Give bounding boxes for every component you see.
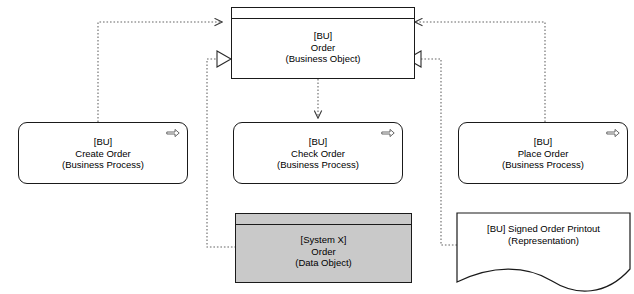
node-line-2: Order <box>236 246 411 258</box>
connector-signed-order-printout-realizes-order <box>421 59 457 245</box>
node-line-2: (Representation) <box>456 235 631 247</box>
node-line-3: (Business Process) <box>19 159 187 171</box>
node-order-business-object[interactable]: [BU] Order (Business Object) <box>231 7 415 79</box>
node-line-3: (Data Object) <box>236 257 411 269</box>
node-signed-order-printout[interactable]: [BU] Signed Order Printout (Representati… <box>456 212 631 292</box>
node-line-3: (Business Object) <box>232 53 414 65</box>
node-line-1: [System X] <box>236 234 411 246</box>
node-line-3: (Business Process) <box>234 159 402 171</box>
node-line-2: Place Order <box>459 148 627 160</box>
node-line-1: [BU] <box>19 136 187 148</box>
diagram-canvas: Order (up, across, arrow into left side … <box>0 0 634 294</box>
node-line-1: [BU] <box>459 136 627 148</box>
node-place-order[interactable]: [BU] Place Order (Business Process) <box>458 122 628 184</box>
node-line-3: (Business Process) <box>459 159 627 171</box>
object-header-strip <box>236 214 411 225</box>
connector-place-order-to-order <box>415 22 545 122</box>
node-line-1: [BU] Signed Order Printout <box>456 223 631 235</box>
hollow-triangle-left-icon <box>217 51 231 67</box>
node-line-1: [BU] <box>232 30 414 42</box>
node-line-2: Order <box>232 42 414 54</box>
connector-create-order-to-order <box>98 22 222 122</box>
connector-system-x-order-realizes-order <box>207 59 236 247</box>
node-system-x-order[interactable]: [System X] Order (Data Object) <box>235 213 412 283</box>
node-check-order[interactable]: [BU] Check Order (Business Process) <box>233 122 403 184</box>
node-line-2: Check Order <box>234 148 402 160</box>
node-line-1: [BU] <box>234 136 402 148</box>
node-line-2: Create Order <box>19 148 187 160</box>
object-header-strip <box>232 8 414 19</box>
node-create-order[interactable]: [BU] Create Order (Business Process) <box>18 122 188 184</box>
